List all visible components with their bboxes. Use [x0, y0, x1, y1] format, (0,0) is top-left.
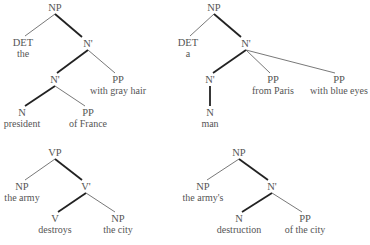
word-with-gray-hair: with gray hair	[90, 85, 146, 96]
edge-nbar-nbar	[213, 50, 246, 73]
word-the-armys: the army's	[183, 192, 224, 203]
word-destruction: destruction	[217, 224, 261, 235]
word-president: president	[4, 118, 41, 129]
edge-np-nbar	[239, 159, 268, 180]
node-pp: PP	[299, 213, 311, 224]
word-the-city: the city	[103, 224, 133, 235]
node-n: N	[18, 107, 26, 118]
edge-np-np	[207, 159, 239, 180]
edge-np-nbar	[55, 14, 82, 37]
node-np: NP	[48, 2, 61, 13]
node-np: NP	[15, 181, 28, 192]
node-nbar: N'	[241, 38, 250, 49]
node-pp: PP	[333, 74, 345, 85]
node-n: N	[206, 107, 214, 118]
edge-nbar-pp2	[246, 50, 335, 73]
edge-nbar-pp2	[55, 86, 85, 106]
edge-nbar-pp	[272, 193, 302, 212]
node-np: NP	[196, 181, 209, 192]
word-the-army: the army	[4, 192, 39, 203]
edge-nbar-pp	[88, 50, 115, 73]
node-np: NP	[232, 147, 245, 158]
node-det: DET	[13, 37, 33, 48]
edge-vbar-v	[58, 193, 86, 212]
word-of-france: of France	[69, 118, 107, 129]
edge-np-det	[190, 14, 214, 36]
edge-nbar-nbar	[57, 50, 88, 73]
node-vbar: V'	[81, 181, 90, 192]
node-v: V	[51, 213, 59, 224]
node-nbar: N'	[205, 74, 214, 85]
edge-vp-vbar	[55, 159, 82, 180]
edge-np-det	[25, 14, 55, 36]
node-vp: VP	[48, 147, 61, 158]
edge-nbar-n	[242, 193, 272, 212]
edge-vp-np	[25, 159, 55, 180]
edge-np-nbar	[214, 14, 241, 37]
word-with-blue-eyes: with blue eyes	[310, 85, 368, 96]
word-man: man	[201, 118, 218, 129]
node-det: DET	[178, 37, 198, 48]
edge-vbar-np	[86, 193, 115, 212]
word-the: the	[17, 48, 29, 59]
word-of-the-city: of the city	[285, 224, 326, 235]
node-np: NP	[111, 213, 124, 224]
edge-nbar-n	[25, 86, 55, 106]
node-nbar: N'	[267, 181, 276, 192]
node-pp: PP	[267, 74, 279, 85]
node-nbar: N'	[83, 38, 92, 49]
word-from-paris: from Paris	[252, 85, 294, 96]
word-destroys: destroys	[38, 224, 71, 235]
node-n: N	[235, 213, 243, 224]
node-pp: PP	[82, 107, 94, 118]
node-pp: PP	[112, 74, 124, 85]
node-np: NP	[207, 2, 220, 13]
node-nbar: N'	[50, 74, 59, 85]
word-a: a	[186, 48, 190, 59]
